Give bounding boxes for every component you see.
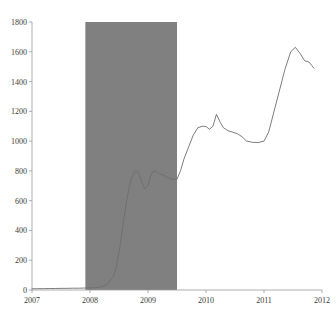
y-tick-label: 600 [15,197,27,206]
y-tick-group: 020040060080010001200140016001800 [11,18,32,295]
x-tick-label: 2010 [198,296,214,305]
y-tick-label: 400 [15,226,27,235]
recession-band [85,22,177,290]
x-tick-group: 200720082009201020112012 [24,290,330,305]
y-tick-label: 0 [23,286,27,295]
x-tick-label: 2011 [256,296,272,305]
y-tick-label: 800 [15,167,27,176]
y-tick-label: 1000 [11,137,27,146]
shaded-band-group [85,22,177,290]
x-tick-label: 2007 [24,296,40,305]
x-tick-label: 2012 [314,296,330,305]
y-tick-label: 1600 [11,48,27,57]
y-tick-label: 1800 [11,18,27,27]
y-tick-label: 1400 [11,78,27,87]
y-tick-label: 1200 [11,107,27,116]
x-tick-label: 2008 [82,296,98,305]
chart-container: 020040060080010001200140016001800 200720… [0,0,336,318]
line-chart: 020040060080010001200140016001800 200720… [0,0,336,318]
x-tick-label: 2009 [140,296,156,305]
y-tick-label: 200 [15,256,27,265]
